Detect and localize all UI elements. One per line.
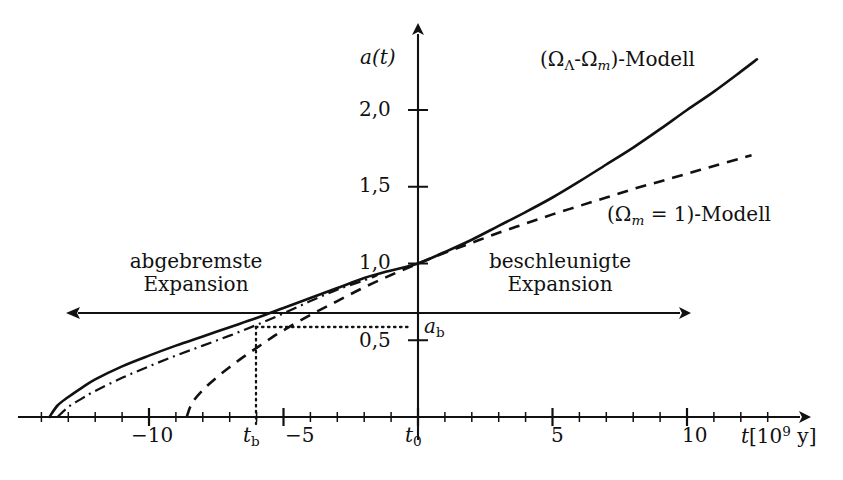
legend-label-omega-m-equals-1: (Ωm = 1)-Modell xyxy=(607,203,771,228)
x-axis-title: t[109 y] xyxy=(741,424,816,448)
region-label-decelerated-line1: abgebremste xyxy=(101,250,291,273)
y-tick-label-0-5: 0,5 xyxy=(359,329,391,352)
x-tick-label-5: 5 xyxy=(551,424,564,447)
x-tick-label-minus-5: −5 xyxy=(285,424,314,447)
region-label-accelerated-expansion: beschleunigte Expansion xyxy=(460,250,660,296)
y-axis-title: a(t) xyxy=(360,46,396,69)
x-tick-label-10: 10 xyxy=(682,424,707,447)
cosmology-scale-factor-figure: a(t) 2,0 1,5 1,0 0,5 ab −10 tb −5 t0 5 1… xyxy=(0,0,843,480)
plot-canvas xyxy=(0,0,843,480)
region-label-accelerated-line1: beschleunigte xyxy=(460,250,660,273)
y-tick-label-1-0: 1,0 xyxy=(359,251,391,274)
curve-dash-dot-model xyxy=(58,275,378,417)
curves-group xyxy=(49,59,756,417)
region-label-accelerated-line2: Expansion xyxy=(460,273,660,296)
divider-arrowhead-left xyxy=(66,307,80,319)
region-label-decelerated-expansion: abgebremste Expansion xyxy=(101,250,291,296)
legend-label-omega-lambda-omega-m: (ΩΛ-Ωm)-Modell xyxy=(540,48,695,73)
curve-omega-lambda-omega-m xyxy=(49,59,756,417)
x-tick-label-t0: t0 xyxy=(405,424,422,449)
axes-group xyxy=(18,34,800,440)
y-tick-label-1-5: 1,5 xyxy=(359,174,391,197)
a-b-annotation-label: ab xyxy=(424,315,445,340)
region-label-decelerated-line2: Expansion xyxy=(101,273,291,296)
x-tick-label-tb: tb xyxy=(243,424,260,449)
expansion-divider-arrow xyxy=(66,307,680,319)
x-tick-label-minus-10: −10 xyxy=(131,424,173,447)
y-tick-label-2-0: 2,0 xyxy=(359,98,391,121)
